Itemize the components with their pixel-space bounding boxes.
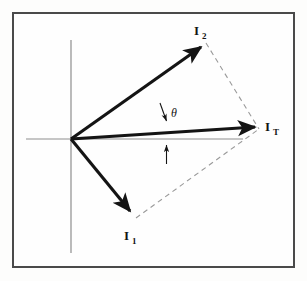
- label-i2-subscript: 2: [202, 31, 207, 41]
- phasor-diagram-canvas: θ I 2 I T I 1: [0, 0, 307, 281]
- label-i1-main: I: [124, 228, 129, 243]
- label-it-main: I: [265, 119, 270, 134]
- label-i1-subscript: 1: [132, 236, 137, 246]
- label-i2-main: I: [194, 23, 199, 38]
- phasor-figure: θ I 2 I T I 1: [0, 0, 307, 281]
- figure-border-frame: [13, 13, 294, 267]
- label-it-subscript: T: [273, 127, 279, 137]
- theta-label: θ: [171, 106, 177, 120]
